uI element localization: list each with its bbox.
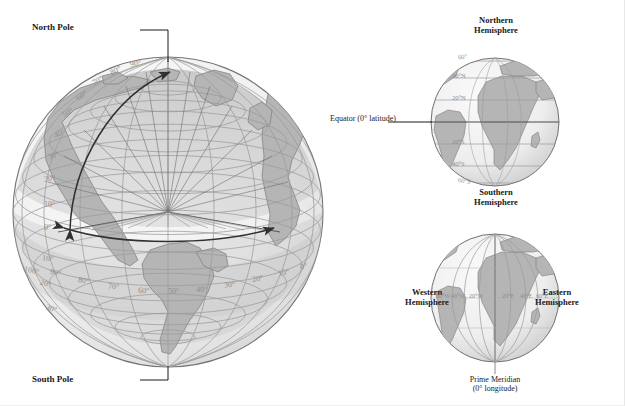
eastern-hemisphere-line2: Hemisphere xyxy=(535,297,579,307)
eastern-hemisphere-label: Eastern Hemisphere xyxy=(518,288,596,307)
globe-figure: North Pole South Pole 90° 80° 70° 60° 50… xyxy=(0,0,625,406)
lat-globe-svg xyxy=(390,20,590,210)
western-hemisphere-line1: Western xyxy=(412,287,442,297)
main-globe: North Pole South Pole 90° 80° 70° 60° 50… xyxy=(0,14,330,384)
longitude-hemisphere-globe: Western Hemisphere Eastern Hemisphere Pr… xyxy=(390,222,590,402)
eastern-hemisphere-line1: Eastern xyxy=(543,287,571,297)
western-hemisphere-label: Western Hemisphere xyxy=(388,288,466,307)
prime-meridian-label: Prime Meridian (0° longitude) xyxy=(435,376,555,394)
northern-hemisphere-line1: Northern xyxy=(479,15,513,25)
equator-callout-label: Equator (0° latitude) xyxy=(330,115,396,124)
north-pole-label: North Pole xyxy=(32,22,74,32)
prime-meridian-line1: Prime Meridian xyxy=(470,375,520,384)
northern-hemisphere-label: Northern Hemisphere xyxy=(448,16,544,35)
latitude-hemisphere-globe: Northern Hemisphere Southern Hemisphere … xyxy=(390,20,590,210)
northern-hemisphere-line2: Hemisphere xyxy=(474,25,518,35)
south-pole-label: South Pole xyxy=(32,374,73,384)
western-hemisphere-line2: Hemisphere xyxy=(405,297,449,307)
southern-hemisphere-line1: Southern xyxy=(479,187,513,197)
southern-hemisphere-line2: Hemisphere xyxy=(474,197,518,207)
southern-hemisphere-label: Southern Hemisphere xyxy=(448,188,544,207)
main-globe-svg xyxy=(0,14,330,384)
prime-meridian-line2: (0° longitude) xyxy=(473,384,518,393)
